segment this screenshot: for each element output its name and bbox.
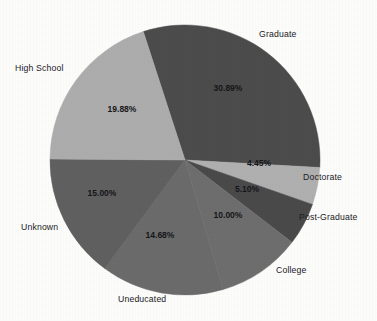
pie-category-label-graduate: Graduate [259,29,296,39]
pie-category-label-high-school: High School [15,63,64,73]
pie-category-label-doctorate: Doctorate [303,172,342,182]
pie-value-label-graduate: 30.89% [214,83,243,93]
pie-value-label-unknown: 15.00% [88,188,117,198]
pie-category-label-unknown: Unknown [21,222,58,232]
pie-category-label-uneducated: Uneducated [118,294,166,304]
pie-value-label-doctorate: 4.45% [247,158,272,168]
pie-category-label-post-graduate: Post-Graduate [299,212,357,222]
pie-chart: 30.89%4.45%5.10%10.00%14.68%15.00%19.88%… [0,0,377,321]
pie-chart-canvas: 30.89%4.45%5.10%10.00%14.68%15.00%19.88% [0,0,377,321]
pie-value-label-uneducated: 14.68% [146,230,175,240]
pie-category-label-college: College [276,265,307,275]
pie-slices-group [50,25,320,295]
pie-value-label-high-school: 19.88% [108,104,137,114]
pie-value-label-post-graduate: 5.10% [235,184,260,194]
pie-value-label-college: 10.00% [214,210,243,220]
